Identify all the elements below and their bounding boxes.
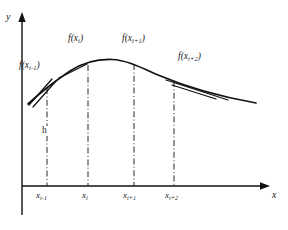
curve-label-f-xip1: f(xi+1) bbox=[122, 34, 145, 44]
x-axis-label: x bbox=[272, 190, 276, 200]
function-curve bbox=[28, 59, 256, 104]
y-axis-label: y bbox=[6, 12, 10, 22]
tangent-segments-group bbox=[29, 64, 228, 107]
droplines-group bbox=[47, 64, 174, 186]
y-axis bbox=[18, 12, 25, 215]
x-tick-label-ip1: xi+1 bbox=[123, 191, 136, 201]
figure-container: y x f(xi-1) f(xi) f(xi+1) f(xi+2) h xi-1… bbox=[0, 0, 288, 230]
tangent-left-lower bbox=[29, 79, 52, 105]
x-tick-label-im1: xi-1 bbox=[36, 191, 47, 201]
x-tick-label-i: xi bbox=[82, 191, 88, 201]
curve-label-f-xim1: f(xi-1) bbox=[19, 61, 40, 71]
tangent-at-xi bbox=[59, 64, 87, 78]
tangent-left-upper bbox=[33, 81, 56, 107]
x-tick-label-ip2: xi+2 bbox=[165, 191, 178, 201]
curve-label-f-xip2: f(xi+2) bbox=[178, 52, 201, 62]
step-size-label: h bbox=[41, 126, 48, 136]
curve-label-f-xi: f(xi) bbox=[68, 34, 83, 44]
tangent-at-xip2 bbox=[166, 80, 228, 100]
x-axis bbox=[22, 182, 270, 189]
